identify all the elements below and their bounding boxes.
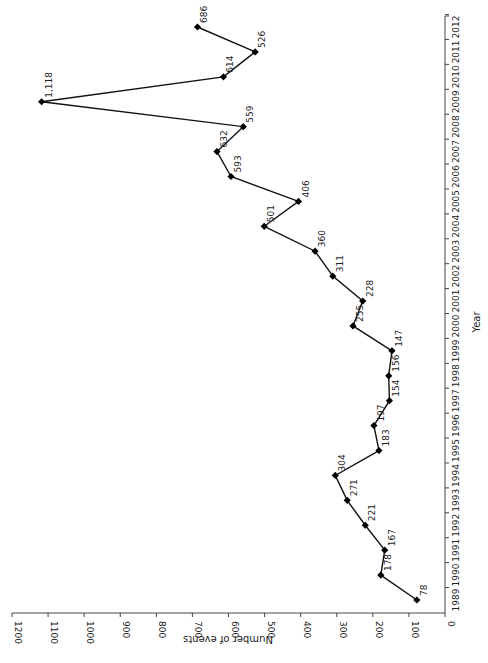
- year-tick-label: 2008: [451, 115, 461, 138]
- data-point-label: 559: [245, 105, 255, 122]
- value-tick-label: 900: [121, 621, 131, 638]
- year-tick-label: 1992: [451, 514, 461, 537]
- year-tick-label: 2012: [451, 16, 461, 39]
- year-tick-label: 2007: [451, 140, 461, 163]
- data-point-marker: [332, 472, 339, 479]
- year-tick-label: 2003: [451, 240, 461, 263]
- year-tick-label: 2011: [451, 40, 461, 63]
- data-point-label: 593: [233, 155, 243, 172]
- year-axis: 1989199019911992199319941995199619971998…: [445, 15, 461, 613]
- value-tick-label: 1100: [49, 621, 59, 644]
- year-tick-label: 1989: [451, 588, 461, 611]
- value-tick-label: 200: [374, 621, 384, 638]
- year-tick-label: 1995: [451, 439, 461, 462]
- data-point-marker: [227, 173, 234, 180]
- data-point-label: 178: [383, 554, 393, 571]
- year-tick-label: 1997: [451, 389, 461, 412]
- data-point-label: 197: [376, 404, 386, 421]
- value-axis-title: Number of events: [183, 634, 273, 645]
- data-point-label: 406: [301, 180, 311, 197]
- data-point-label: 526: [257, 30, 267, 47]
- data-point-label: 614: [225, 55, 235, 72]
- data-point-label: 221: [367, 504, 377, 521]
- value-tick-label: 400: [302, 621, 312, 638]
- year-tick-label: 2000: [451, 314, 461, 337]
- value-tick-label: 1000: [85, 621, 95, 644]
- data-point-label: 228: [365, 280, 375, 297]
- data-point-marker: [388, 347, 395, 354]
- data-point-label: 156: [391, 354, 401, 371]
- year-tick-label: 1998: [451, 364, 461, 387]
- year-tick-label: 1999: [451, 339, 461, 362]
- value-tick-label: 100: [410, 621, 420, 638]
- data-point-label: 147: [394, 330, 404, 347]
- year-tick-label: 2004: [451, 215, 461, 238]
- year-tick-label: 2005: [451, 190, 461, 213]
- year-tick-label: 1994: [451, 464, 461, 487]
- value-tick-label: 1200: [13, 621, 23, 644]
- data-point-label: 686: [199, 6, 209, 23]
- value-tick-label: 0: [446, 621, 456, 627]
- year-tick-label: 2006: [451, 165, 461, 188]
- data-point-label: 304: [337, 454, 347, 471]
- year-tick-label: 1991: [451, 539, 461, 562]
- year-tick-label: 2001: [451, 290, 461, 313]
- year-tick-label: 1990: [451, 563, 461, 586]
- data-point-marker: [386, 397, 393, 404]
- year-tick-label: 2010: [451, 65, 461, 88]
- data-point-marker: [375, 447, 382, 454]
- data-point-label: 1,118: [44, 72, 54, 98]
- data-point-marker: [385, 372, 392, 379]
- data-point-label: 271: [349, 479, 359, 496]
- data-point-label: 78: [419, 584, 429, 596]
- year-tick-label: 1993: [451, 489, 461, 512]
- data-point-marker: [38, 98, 45, 105]
- year-tick-label: 2002: [451, 265, 461, 288]
- data-point-marker: [349, 322, 356, 329]
- data-point-label: 255: [355, 305, 365, 322]
- year-axis-title: Year: [471, 311, 482, 334]
- data-point-marker: [370, 422, 377, 429]
- data-point-label: 360: [317, 230, 327, 247]
- value-tick-label: 800: [157, 621, 167, 638]
- line-chart: 0100200300400500600700800900100011001200…: [0, 0, 488, 663]
- data-point-label: 183: [381, 429, 391, 446]
- year-tick-label: 2009: [451, 90, 461, 113]
- value-tick-label: 300: [338, 621, 348, 638]
- data-point-label: 632: [219, 130, 229, 147]
- year-tick-label: 1996: [451, 414, 461, 437]
- data-point-label: 311: [335, 255, 345, 272]
- data-point-marker: [194, 23, 201, 30]
- data-point-label: 154: [391, 379, 401, 396]
- data-point-label: 501: [266, 205, 276, 222]
- data-point-label: 167: [387, 529, 397, 546]
